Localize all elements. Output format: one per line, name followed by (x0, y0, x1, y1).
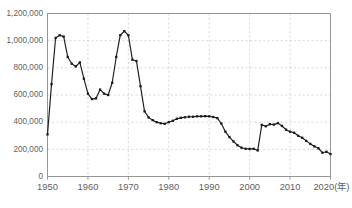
data-point-marker (151, 119, 153, 121)
data-point-marker (131, 59, 133, 61)
data-series-line (48, 31, 331, 154)
x-tick-label-1950: 1950 (37, 181, 58, 192)
y-tick-label-200000: 200,000 (13, 145, 43, 154)
data-point-marker (309, 143, 311, 145)
data-point-marker (95, 97, 97, 99)
data-point-marker (79, 61, 81, 63)
data-point-marker (103, 92, 105, 94)
data-point-marker (297, 135, 299, 137)
data-point-marker (240, 147, 242, 149)
data-point-marker (54, 37, 56, 39)
data-point-marker (273, 123, 275, 125)
data-point-marker (188, 116, 190, 118)
data-point-marker (71, 63, 73, 65)
data-point-marker (265, 125, 267, 127)
x-tick-label-1990: 1990 (199, 181, 220, 192)
data-point-marker (46, 133, 48, 135)
data-point-marker (325, 151, 327, 153)
data-point-marker (285, 128, 287, 130)
data-point-marker (253, 148, 255, 150)
x-tick-label-2020: 2020(年) (313, 181, 349, 192)
data-point-marker (75, 65, 77, 67)
data-point-marker (200, 115, 202, 117)
x-tick-label-1970: 1970 (118, 181, 139, 192)
y-tick-label-400000: 400,000 (13, 117, 43, 126)
data-point-marker (91, 98, 93, 100)
y-tick-label-0: 0 (38, 172, 43, 181)
data-point-marker (293, 132, 295, 134)
gridlines-horizontal (48, 14, 331, 150)
data-point-marker (164, 123, 166, 125)
data-point-marker (119, 34, 121, 36)
data-point-marker (156, 121, 158, 123)
data-point-marker (281, 125, 283, 127)
data-point-marker (277, 122, 279, 124)
data-point-marker (289, 131, 291, 133)
x-tick-label-1980: 1980 (158, 181, 179, 192)
data-point-marker (127, 34, 129, 36)
data-point-marker (87, 92, 89, 94)
y-tick-label-1200000: 1,200,000 (7, 9, 44, 18)
data-point-marker (172, 120, 174, 122)
data-point-marker (228, 136, 230, 138)
x-tick-label-2010: 2010 (280, 181, 301, 192)
data-point-marker (67, 56, 69, 58)
data-point-marker (224, 131, 226, 133)
data-point-marker (232, 140, 234, 142)
data-point-marker (180, 117, 182, 119)
data-point-marker (123, 30, 125, 32)
data-point-marker (204, 115, 206, 117)
data-point-marker (248, 148, 250, 150)
data-point-marker (63, 35, 65, 37)
data-point-marker (58, 34, 60, 36)
data-point-marker (216, 117, 218, 119)
data-point-marker (83, 78, 85, 80)
data-point-marker (107, 94, 109, 96)
data-point-marker (220, 122, 222, 124)
data-point-marker (236, 144, 238, 146)
births-line-chart: 0200,000400,000600,000800,0001,000,0001,… (0, 0, 352, 208)
data-point-marker (212, 116, 214, 118)
y-tick-label-1000000: 1,000,000 (7, 36, 44, 45)
series-line-件数 (48, 31, 331, 154)
data-point-marker (317, 147, 319, 149)
data-point-marker (160, 122, 162, 124)
data-point-marker (329, 153, 331, 155)
data-point-marker (135, 60, 137, 62)
data-point-marker (196, 115, 198, 117)
data-point-marker (208, 115, 210, 117)
data-point-marker (139, 85, 141, 87)
data-point-marker (301, 137, 303, 139)
x-tick-label-2000: 2000 (239, 181, 260, 192)
data-point-marker (99, 88, 101, 90)
data-point-marker (244, 148, 246, 150)
x-axis-ticks (48, 177, 331, 180)
data-point-marker (111, 82, 113, 84)
data-point-marker (115, 56, 117, 58)
x-axis-tick-labels: 19501960197019801990200020102020(年) (37, 181, 349, 192)
data-point-marker (321, 152, 323, 154)
data-point-marker (305, 140, 307, 142)
x-tick-label-1960: 1960 (77, 181, 98, 192)
data-point-marker (192, 116, 194, 118)
data-point-markers (46, 30, 331, 155)
data-point-marker (176, 118, 178, 120)
data-point-marker (184, 116, 186, 118)
data-point-marker (143, 110, 145, 112)
y-axis-tick-labels: 0200,000400,000600,000800,0001,000,0001,… (7, 9, 44, 181)
chart-canvas: 0200,000400,000600,000800,0001,000,0001,… (0, 0, 352, 208)
data-point-marker (261, 124, 263, 126)
data-point-marker (147, 116, 149, 118)
data-point-marker (168, 121, 170, 123)
data-point-marker (269, 123, 271, 125)
y-tick-label-800000: 800,000 (13, 63, 43, 72)
data-point-marker (257, 149, 259, 151)
data-point-marker (50, 83, 52, 85)
y-tick-label-600000: 600,000 (13, 90, 43, 99)
data-point-marker (313, 145, 315, 147)
